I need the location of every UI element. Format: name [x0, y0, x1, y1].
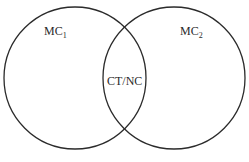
- label-mc1: MC1: [44, 24, 67, 40]
- label-mc2: MC2: [180, 24, 203, 40]
- label-intersection: CT/NC: [107, 74, 142, 88]
- venn-diagram: MC1 MC2 CT/NC: [0, 0, 249, 162]
